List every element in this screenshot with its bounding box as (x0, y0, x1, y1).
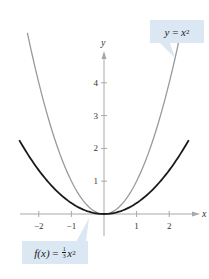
callout-top-eq: = (169, 26, 181, 38)
callout-bottom-pointer (76, 218, 89, 242)
y-axis-label: y (100, 37, 106, 48)
x-tick-label: 2 (167, 221, 172, 231)
y-ticks: 1234 (94, 78, 108, 186)
callout-bottom-eq: = (50, 247, 62, 259)
callout-y-equals-x-squared: y = x 2 (150, 20, 204, 43)
axes (20, 51, 200, 236)
fraction-numerator: 1 (62, 246, 66, 253)
y-tick-label: 3 (94, 111, 99, 121)
y-tick-label: 2 (94, 143, 99, 153)
x-axis-arrow-icon (192, 212, 200, 217)
x-tick-label: −2 (34, 221, 44, 231)
callout-top-pointer (160, 43, 175, 58)
y-tick-label: 1 (94, 176, 99, 186)
fraction-denominator: 3 (63, 253, 66, 259)
callout-bottom-fraction: 1 3 (62, 246, 66, 259)
x-axis-label: x (201, 208, 207, 219)
y-axis-arrow-icon (102, 51, 107, 59)
x-tick-label: 1 (134, 221, 139, 231)
y-tick-label: 4 (94, 78, 99, 88)
callout-bottom-lhs: f(x) (34, 247, 49, 259)
x-tick-label: −1 (67, 221, 77, 231)
callout-f-one-third-x-squared: f(x) = 1 3 x 2 (22, 241, 88, 264)
